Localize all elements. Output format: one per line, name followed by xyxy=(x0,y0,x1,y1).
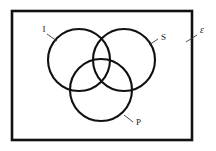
venn-diagram-figure: ε I S P xyxy=(0,0,216,151)
circle-s-label: S xyxy=(161,32,166,42)
circle-p-label: P xyxy=(136,117,141,127)
circle-i-label: I xyxy=(43,24,46,34)
universal-set-label: ε xyxy=(200,25,204,35)
venn-diagram-canvas: ε I S P xyxy=(0,0,216,151)
circle-i-leader-line xyxy=(47,34,57,41)
circle-p-leader-line xyxy=(124,115,133,122)
